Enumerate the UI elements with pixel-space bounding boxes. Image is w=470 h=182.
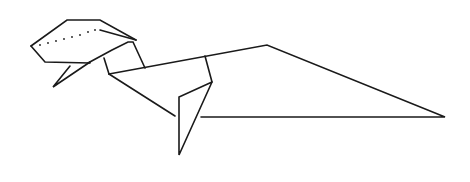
head-inner-fold (100, 30, 136, 40)
dot (55, 40, 57, 42)
dot (87, 31, 89, 33)
leg (179, 82, 212, 155)
neck-underside (109, 74, 175, 116)
jaw (53, 62, 90, 87)
dot (39, 44, 41, 46)
dot (79, 34, 81, 36)
dot (94, 29, 96, 31)
head-lower-edge (31, 46, 90, 63)
dot (63, 38, 65, 40)
dinosaur-drawing (0, 0, 470, 182)
head-outline (31, 20, 136, 46)
neck-top (88, 42, 145, 68)
dot (71, 36, 73, 38)
dinosaur-svg (0, 0, 470, 182)
leg-fold (205, 56, 212, 82)
dot (47, 42, 49, 44)
eye-dotted-line (39, 29, 96, 46)
neck-vertical-fold (104, 58, 109, 74)
